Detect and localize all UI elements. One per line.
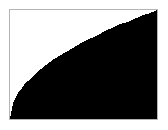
area-chart-svg	[10, 10, 157, 119]
chart-figure	[0, 0, 168, 130]
plot-area-frame	[9, 9, 158, 120]
